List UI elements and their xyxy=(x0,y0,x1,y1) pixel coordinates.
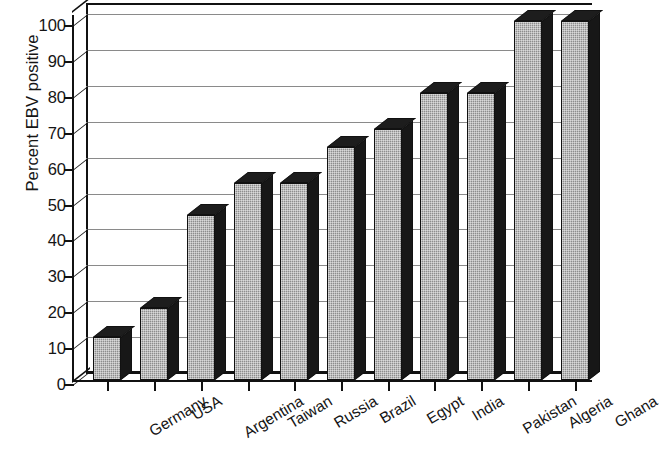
bar-side-face xyxy=(495,84,506,380)
x-axis-tick xyxy=(294,380,296,391)
x-axis-tick xyxy=(388,380,390,391)
y-axis-tick-label: 90 xyxy=(12,53,66,70)
bar-side-face xyxy=(542,12,553,380)
y-axis-tick xyxy=(64,276,74,278)
bar-argentina xyxy=(187,215,215,380)
y-axis-tick xyxy=(64,169,74,171)
bar-front-face xyxy=(93,337,121,380)
bar-front-face xyxy=(514,21,542,380)
bar-front-face xyxy=(374,129,402,380)
bar-brazil xyxy=(327,147,355,380)
bar-side-face xyxy=(402,120,413,380)
bar-front-face xyxy=(327,147,355,380)
y-axis-tick-label: 70 xyxy=(12,125,66,142)
bars-group xyxy=(72,3,592,393)
bar-russia xyxy=(280,183,308,380)
bar-side-face xyxy=(308,174,319,380)
x-axis-label-russia: Russia xyxy=(331,392,380,431)
x-axis-tick xyxy=(341,380,343,391)
bar-side-face xyxy=(262,174,273,380)
bar-side-face xyxy=(215,206,226,380)
plot-area xyxy=(72,3,592,393)
bar-front-face xyxy=(420,93,448,380)
y-axis-tick xyxy=(64,348,74,350)
y-axis-tick xyxy=(64,133,74,135)
x-axis-tick xyxy=(201,380,203,391)
x-axis-tick xyxy=(481,380,483,391)
bar-front-face xyxy=(561,21,589,380)
x-axis-ticks xyxy=(72,380,592,392)
bar-egypt xyxy=(374,129,402,380)
bar-front-face xyxy=(187,215,215,380)
bar-front-face xyxy=(140,308,168,380)
bar-front-face xyxy=(280,183,308,380)
y-axis-tick xyxy=(64,61,74,63)
y-axis-tick-label: 60 xyxy=(12,161,66,178)
bar-front-face xyxy=(234,183,262,380)
bar-taiwan xyxy=(234,183,262,380)
y-axis-tick xyxy=(64,97,74,99)
bar-side-face xyxy=(121,328,132,380)
x-axis-label-ghana: Ghana xyxy=(611,392,660,431)
bar-side-face xyxy=(355,138,366,380)
bar-front-face xyxy=(467,93,495,380)
x-axis-label-india: India xyxy=(469,392,507,424)
y-axis-tick-label: 80 xyxy=(12,89,66,106)
bar-germany xyxy=(93,337,121,380)
x-axis-tick xyxy=(575,380,577,391)
x-axis-label-egypt: Egypt xyxy=(423,392,466,427)
bar-ghana xyxy=(561,21,589,380)
y-axis-tick-label: 10 xyxy=(12,340,66,357)
y-axis-tick-label: 50 xyxy=(12,197,66,214)
bar-algeria xyxy=(514,21,542,380)
y-axis-tick xyxy=(64,312,74,314)
x-axis-tick xyxy=(528,380,530,391)
y-axis-tick xyxy=(64,205,74,207)
y-axis-tick-labels: 0102030405060708090100 xyxy=(12,0,66,400)
y-axis-tick-label: 20 xyxy=(12,304,66,321)
bar-india xyxy=(420,93,448,380)
bar-side-face xyxy=(168,300,179,380)
bar-usa xyxy=(140,308,168,380)
x-axis-tick-labels: GermanyUSAArgentinaTaiwanRussiaBrazilEgy… xyxy=(0,392,596,455)
x-axis-tick xyxy=(434,380,436,391)
y-axis-tick-label: 0 xyxy=(12,376,66,393)
x-axis-label-brazil: Brazil xyxy=(377,392,419,427)
y-axis-tick xyxy=(64,240,74,242)
bar-pakistan xyxy=(467,93,495,380)
y-axis-tick-label: 40 xyxy=(12,232,66,249)
bar-side-face xyxy=(589,12,600,380)
y-axis-tick xyxy=(64,25,74,27)
x-axis-tick xyxy=(154,380,156,391)
x-axis-tick xyxy=(107,380,109,391)
bar-side-face xyxy=(448,84,459,380)
y-axis-tick-label: 100 xyxy=(12,17,66,34)
y-axis-tick-label: 30 xyxy=(12,268,66,285)
x-axis-tick xyxy=(248,380,250,391)
